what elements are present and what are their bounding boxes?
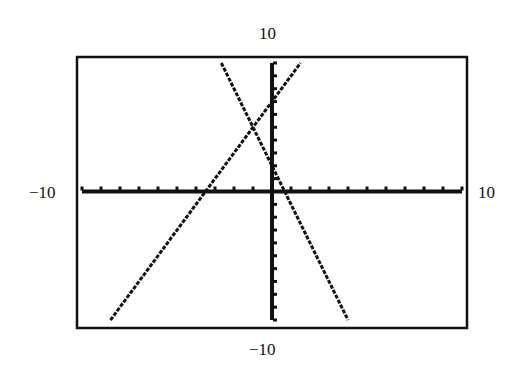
- x-tick: [385, 187, 388, 191]
- x-tick: [271, 187, 274, 191]
- x-tick: [461, 187, 464, 191]
- y-tick: [273, 62, 277, 65]
- y-tick: [273, 241, 277, 244]
- y-tick: [273, 267, 277, 270]
- x-tick: [423, 187, 426, 191]
- x-tick: [442, 187, 445, 191]
- y-tick: [273, 306, 277, 309]
- y-tick: [273, 151, 277, 154]
- y-tick: [273, 280, 277, 283]
- y-tick: [273, 216, 277, 219]
- x-tick: [119, 187, 122, 191]
- y-tick: [273, 139, 277, 142]
- x-tick: [214, 187, 217, 191]
- y-tick: [273, 113, 277, 116]
- x-tick: [176, 187, 179, 191]
- x-tick: [347, 187, 350, 191]
- ymin-label: −10: [249, 341, 276, 358]
- xmin-label: −10: [29, 184, 56, 201]
- ymax-label: 10: [259, 25, 276, 42]
- x-tick: [290, 187, 293, 191]
- x-tick: [233, 187, 236, 191]
- y-tick: [273, 87, 277, 90]
- y-tick: [273, 74, 277, 77]
- y-tick: [273, 203, 277, 206]
- x-tick: [157, 187, 160, 191]
- y-tick: [273, 254, 277, 257]
- graph-window: [0, 0, 517, 376]
- x-tick: [404, 187, 407, 191]
- x-tick: [195, 187, 198, 191]
- x-tick: [100, 187, 103, 191]
- y-tick: [273, 190, 277, 193]
- xmax-label: 10: [478, 184, 495, 201]
- x-tick: [366, 187, 369, 191]
- x-tick: [309, 187, 312, 191]
- x-tick: [252, 187, 255, 191]
- x-tick: [81, 187, 84, 191]
- x-tick: [328, 187, 331, 191]
- x-tick: [138, 187, 141, 191]
- y-tick: [273, 293, 277, 296]
- y-tick: [273, 319, 277, 322]
- y-tick: [273, 229, 277, 232]
- y-tick: [273, 126, 277, 129]
